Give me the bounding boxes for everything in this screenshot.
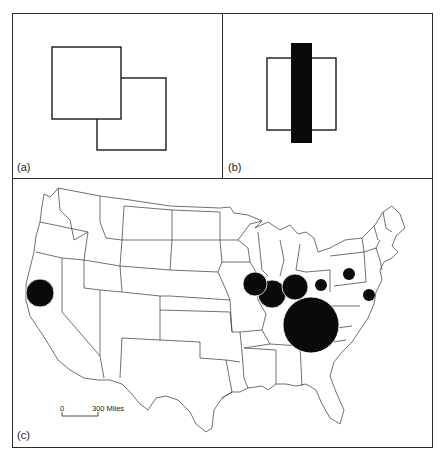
indiana-circle [282,274,308,300]
california-circle [26,279,54,307]
panel-c-label: (c) [17,429,30,441]
iowa-illinois-circle [243,272,267,296]
kentucky-tennessee-circle [283,297,339,353]
scale-end-label: 300 Miles [92,404,124,413]
us-outline [26,188,405,432]
scale-zero-label: 0 [60,404,64,413]
pennsylvania-circle [343,268,355,280]
ohio-circle [315,279,327,291]
maryland-circle [363,289,375,301]
proportional-circles [26,268,375,353]
panel-c: 0 300 Miles (c) [0,0,446,460]
us-map: 0 300 Miles [0,0,446,460]
